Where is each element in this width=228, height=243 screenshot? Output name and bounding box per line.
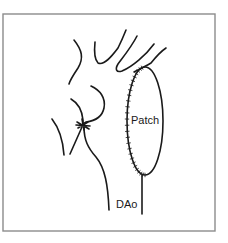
suture-stitch xyxy=(126,143,130,144)
suture-stitch xyxy=(126,101,130,102)
vessel-left-upper xyxy=(69,40,81,84)
suture-stitch xyxy=(127,95,131,96)
diagram-canvas: Patch DAo xyxy=(0,0,228,243)
suture-stitch xyxy=(128,90,132,91)
suture-stitch xyxy=(127,148,131,149)
patch-label: Patch xyxy=(131,114,159,126)
suture-stitch xyxy=(129,153,133,154)
vessel-inner-curve xyxy=(82,86,104,126)
vessel-lower-mid xyxy=(70,127,82,154)
dao-label: DAo xyxy=(116,198,137,210)
suture-stitch xyxy=(126,137,130,138)
ligation-knot xyxy=(76,119,90,130)
descending-aorta-left-wall xyxy=(84,127,109,210)
vessel-inner-left xyxy=(71,99,83,125)
vessel-lower-left xyxy=(52,119,64,155)
